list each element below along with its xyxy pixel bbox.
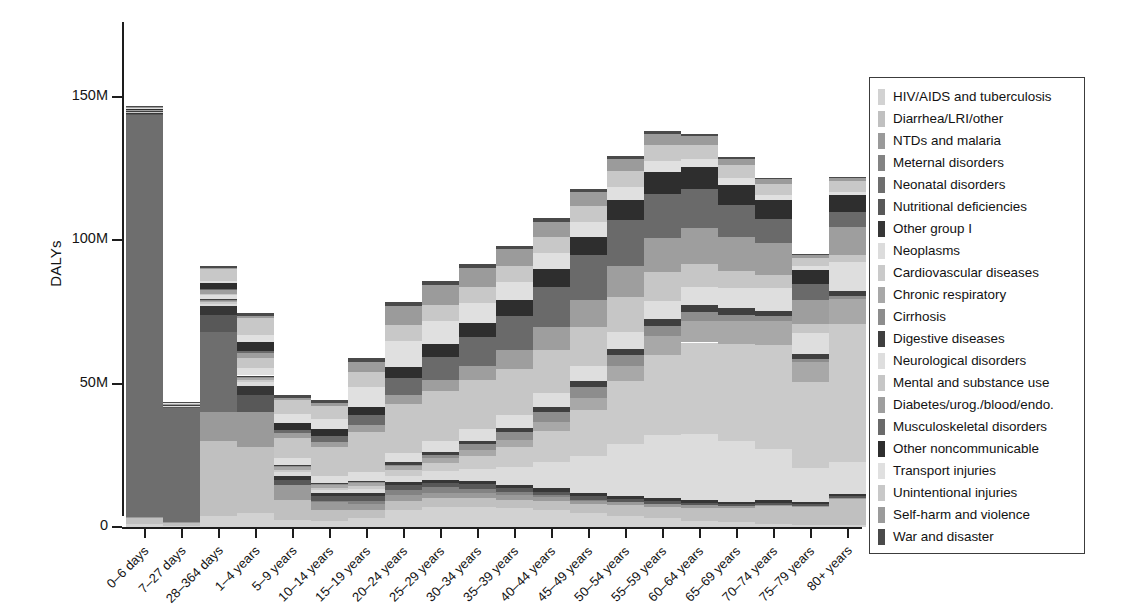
legend-item[interactable]: Transport injuries	[870, 460, 1084, 482]
bar-segment	[496, 428, 533, 432]
legend-item[interactable]: Neonatal disorders	[870, 174, 1084, 196]
bar-segment	[755, 505, 792, 506]
bar-segment	[496, 447, 533, 467]
bar-segment	[274, 485, 311, 499]
bar-stack[interactable]	[385, 22, 422, 527]
bar-segment	[681, 508, 718, 521]
bar-segment	[792, 362, 829, 382]
bar-stack[interactable]	[718, 22, 755, 527]
legend-swatch-icon	[878, 419, 885, 435]
legend-item[interactable]: Diarrhea/LRI/other	[870, 108, 1084, 130]
legend-item[interactable]: Other noncommunicable	[870, 438, 1084, 460]
bar-segment	[237, 353, 274, 359]
bar-segment	[200, 266, 237, 268]
legend-item-label: Nutritional deficiencies	[893, 196, 1027, 218]
bar-segment	[200, 412, 237, 441]
bar-segment	[792, 468, 829, 502]
legend-item[interactable]: Self-harm and violence	[870, 504, 1084, 526]
legend-item[interactable]: Cardiovascular diseases	[870, 262, 1084, 284]
bar-segment	[200, 268, 237, 269]
bar-stack[interactable]	[348, 22, 385, 527]
bar-segment	[644, 319, 681, 326]
legend-item[interactable]: HIV/AIDS and tuberculosis	[870, 86, 1084, 108]
bar-segment	[422, 463, 459, 471]
legend-item[interactable]: NTDs and malaria	[870, 130, 1084, 152]
bar-stack[interactable]	[126, 22, 163, 527]
bar-segment	[126, 524, 163, 527]
bar-segment	[385, 466, 422, 470]
legend-item[interactable]: Meternal disorders	[870, 152, 1084, 174]
bar-segment	[496, 300, 533, 316]
bar-segment	[422, 487, 459, 492]
bar-segment	[496, 488, 533, 492]
bar-segment	[459, 444, 496, 450]
bar-stack[interactable]	[644, 22, 681, 527]
bar-stack[interactable]	[533, 22, 570, 527]
bar-segment	[237, 376, 274, 377]
legend-swatch-icon	[878, 111, 885, 127]
bar-segment	[422, 507, 459, 527]
bar-stack[interactable]	[792, 22, 829, 527]
bar-stack[interactable]	[163, 22, 200, 527]
bar-segment	[422, 458, 459, 463]
legend-item[interactable]: Chronic respiratory	[870, 284, 1084, 306]
x-tick	[847, 529, 849, 538]
bar-segment	[496, 282, 533, 300]
bar-stack[interactable]	[570, 22, 607, 527]
bar-stack[interactable]	[496, 22, 533, 527]
legend-item[interactable]: Neurological disorders	[870, 350, 1084, 372]
legend-item[interactable]: War and disaster	[870, 526, 1084, 548]
bar-stack[interactable]	[459, 22, 496, 527]
bar-segment	[422, 452, 459, 455]
bar-segment	[792, 359, 829, 362]
bar-segment	[533, 495, 570, 496]
legend-item[interactable]: Cirrhosis	[870, 306, 1084, 328]
legend-item[interactable]: Nutritional deficiencies	[870, 196, 1084, 218]
x-tick	[181, 529, 183, 538]
legend-item[interactable]: Diabetes/urog./blood/endo.	[870, 394, 1084, 416]
legend-item[interactable]: Mental and substance use	[870, 372, 1084, 394]
bar-segment	[385, 482, 422, 485]
bar-segment	[459, 337, 496, 366]
bar-segment	[533, 287, 570, 327]
bar-segment	[681, 145, 718, 159]
bar-segment	[829, 299, 866, 325]
legend-swatch-icon	[878, 331, 885, 347]
legend-item[interactable]: Musculoskeletal disorders	[870, 416, 1084, 438]
bar-segment	[533, 393, 570, 407]
legend-item-label: Meternal disorders	[893, 152, 1004, 174]
bar-segment	[718, 157, 755, 158]
bar-segment	[718, 315, 755, 321]
bar-segment	[237, 368, 274, 375]
bar-stack[interactable]	[274, 22, 311, 527]
bar-stack[interactable]	[755, 22, 792, 527]
legend-swatch-icon	[878, 485, 885, 501]
chart-figure: DALYs 050M100M150M 0–6 days7–27 days28–3…	[0, 0, 1126, 614]
bar-segment	[274, 433, 311, 438]
legend-swatch-icon	[878, 507, 885, 523]
bar-segment	[422, 380, 459, 391]
bar-segment	[348, 415, 385, 425]
legend-item[interactable]: Digestive diseases	[870, 328, 1084, 350]
bar-stack[interactable]	[422, 22, 459, 527]
bar-segment	[385, 378, 422, 395]
bar-stack[interactable]	[607, 22, 644, 527]
bar-segment	[607, 355, 644, 366]
bar-segment	[459, 441, 496, 444]
bar-segment	[422, 441, 459, 452]
bar-segment	[422, 455, 459, 458]
bar-stack[interactable]	[829, 22, 866, 527]
bar-segment	[496, 350, 533, 369]
bar-segment	[570, 189, 607, 192]
bar-stack[interactable]	[237, 22, 274, 527]
bar-stack[interactable]	[200, 22, 237, 527]
bar-stack[interactable]	[681, 22, 718, 527]
bar-segment	[829, 499, 866, 525]
bar-segment	[755, 179, 792, 184]
bar-stack[interactable]	[311, 22, 348, 527]
bar-segment	[533, 218, 570, 221]
legend-item[interactable]: Unintentional injuries	[870, 482, 1084, 504]
legend-item[interactable]: Other group I	[870, 218, 1084, 240]
legend-item[interactable]: Neoplasms	[870, 240, 1084, 262]
bar-segment	[570, 222, 607, 236]
